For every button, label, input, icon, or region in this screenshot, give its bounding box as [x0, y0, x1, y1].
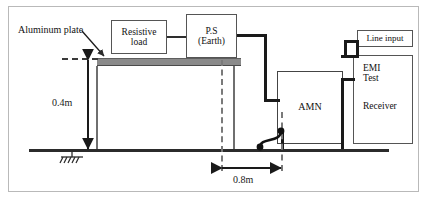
ps-earth-label-line2: (Earth) [198, 36, 225, 46]
emi-receiver-label-line3: Receiver [363, 101, 397, 111]
box-line-input[interactable]: Line input [357, 30, 413, 47]
wire-receiver-ground [341, 78, 344, 151]
dashed-reference-line-left [221, 60, 223, 171]
dashed-reference-line-right [281, 112, 283, 171]
resistive-load-label-line2: load [131, 37, 147, 47]
aluminum-ground-plate [97, 58, 241, 66]
resistive-load-label-line1: Resistive [122, 27, 157, 37]
label-distance-dimension: 0.8m [233, 174, 253, 185]
box-amn[interactable]: AMN [277, 71, 343, 144]
wire-ps-down-vertical [264, 34, 267, 102]
wire-ps-out-horizontal [237, 34, 267, 37]
diagram-canvas: Resistive load P.S (Earth) AMN Line inpu… [0, 0, 429, 201]
amn-label: AMN [298, 102, 321, 113]
ps-earth-label-line1: P.S [206, 26, 218, 36]
label-aluminum-plate: Aluminum plate [18, 24, 83, 35]
reference-ground-plane [29, 149, 389, 152]
dashed-plate-top-extension [62, 58, 98, 60]
box-power-supply-earth[interactable]: P.S (Earth) [186, 14, 237, 58]
emi-receiver-label-line1: EMI [363, 63, 380, 73]
box-emi-test-receiver[interactable]: EMI Test Receiver [353, 55, 413, 144]
line-input-label: Line input [366, 34, 403, 44]
emi-receiver-label-line2: Test [363, 73, 379, 83]
test-table-legs [96, 66, 235, 151]
wire-into-amn [264, 99, 280, 102]
wire-line-input-drop [344, 40, 347, 58]
box-resistive-load[interactable]: Resistive load [111, 20, 167, 54]
label-height-dimension: 0.4m [52, 97, 72, 108]
wire-load-to-ps [167, 36, 186, 38]
